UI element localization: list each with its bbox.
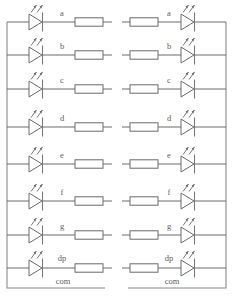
resistor-icon (130, 123, 158, 131)
segment-label: c (167, 75, 171, 85)
left-circuit-group: a b c (7, 5, 112, 288)
left-row-a: a (7, 5, 112, 32)
segment-label: e (60, 150, 64, 160)
resistor-icon (75, 51, 103, 59)
left-row-e: e (7, 147, 112, 174)
segment-label: d (167, 113, 172, 123)
left-row-b: b (7, 38, 112, 65)
led-icon (29, 5, 43, 32)
resistor-icon (75, 231, 103, 239)
led-icon (181, 72, 195, 99)
right-row-d: d (122, 110, 226, 137)
left-row-d: d (7, 110, 112, 137)
segment-label: dp (165, 253, 174, 263)
led-icon (29, 251, 43, 278)
led-icon (181, 38, 195, 65)
segment-label: f (61, 187, 64, 197)
led-icon (29, 38, 43, 65)
resistor-icon (130, 85, 158, 93)
right-circuit-group: a b c (122, 5, 226, 288)
led-icon (29, 147, 43, 174)
resistor-icon (130, 18, 158, 26)
segment-label: e (167, 150, 171, 160)
right-row-g: g (122, 218, 226, 245)
right-common-bus (128, 22, 226, 288)
left-row-dp: dp (7, 251, 112, 278)
segment-label: dp (58, 253, 67, 263)
schematic-diagram: a b c (0, 0, 233, 303)
led-icon (181, 251, 195, 278)
led-icon (29, 110, 43, 137)
resistor-icon (75, 123, 103, 131)
left-com-label: com (56, 276, 71, 286)
led-icon (29, 72, 43, 99)
resistor-icon (75, 160, 103, 168)
segment-label: b (60, 41, 64, 51)
led-icon (29, 218, 43, 245)
led-icon (181, 184, 195, 211)
segment-label: a (167, 8, 171, 18)
resistor-icon (75, 264, 103, 272)
resistor-icon (75, 197, 103, 205)
resistor-icon (130, 51, 158, 59)
segment-label: g (167, 221, 172, 231)
resistor-icon (130, 231, 158, 239)
segment-label: d (60, 113, 65, 123)
led-icon (181, 5, 195, 32)
segment-label: f (168, 187, 171, 197)
left-row-f: f (7, 184, 112, 211)
resistor-icon (75, 18, 103, 26)
segment-label: c (60, 75, 64, 85)
right-row-e: e (122, 147, 226, 174)
resistor-icon (130, 197, 158, 205)
led-icon (181, 147, 195, 174)
right-row-a: a (122, 5, 226, 32)
right-row-dp: dp (122, 251, 226, 278)
led-icon (181, 110, 195, 137)
resistor-icon (75, 85, 103, 93)
left-row-c: c (7, 72, 112, 99)
left-common-bus (7, 22, 105, 288)
resistor-icon (130, 264, 158, 272)
led-icon (29, 184, 43, 211)
right-com-label: com (165, 276, 180, 286)
right-row-f: f (122, 184, 226, 211)
resistor-icon (130, 160, 158, 168)
segment-label: b (167, 41, 171, 51)
segment-label: g (60, 221, 65, 231)
led-icon (181, 218, 195, 245)
left-row-g: g (7, 218, 112, 245)
right-row-b: b (122, 38, 226, 65)
right-row-c: c (122, 72, 226, 99)
segment-label: a (60, 8, 64, 18)
schematic-canvas: a b c (0, 0, 233, 303)
